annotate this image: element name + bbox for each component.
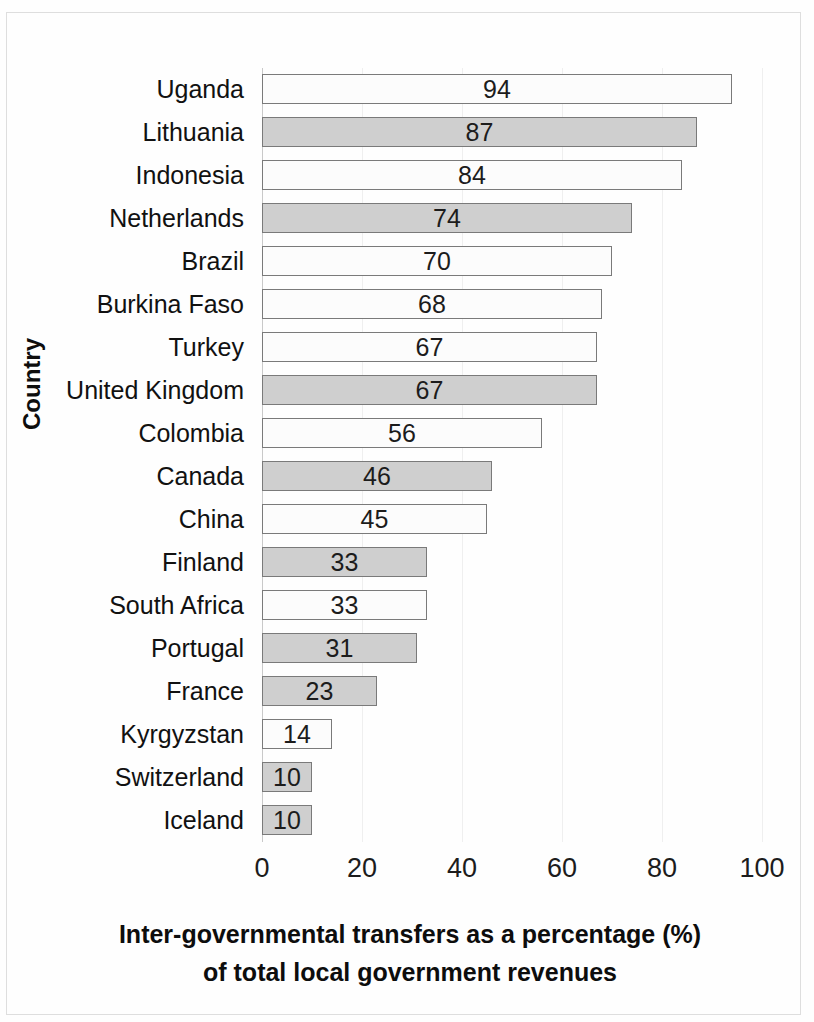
bar-value-label: 14	[262, 719, 332, 749]
bar-row[interactable]: 68	[262, 283, 762, 326]
chart-figure: UgandaLithuaniaIndonesiaNetherlandsBrazi…	[0, 0, 814, 1022]
category-label: Finland	[162, 541, 244, 584]
x-axis-tick-labels: 020406080100	[262, 848, 762, 888]
bar-row[interactable]: 56	[262, 412, 762, 455]
plot-area: 948784747068676756464533333123141010	[262, 68, 762, 842]
category-label: South Africa	[109, 584, 244, 627]
bar-row[interactable]: 14	[262, 713, 762, 756]
x-tick-label-60: 60	[547, 848, 577, 888]
bar-row[interactable]: 33	[262, 584, 762, 627]
y-axis-title: Country	[18, 338, 46, 430]
category-label: Uganda	[156, 68, 244, 111]
bar-value-label: 94	[262, 74, 732, 104]
category-label: Turkey	[169, 326, 244, 369]
bar-row[interactable]: 23	[262, 670, 762, 713]
bar-row[interactable]: 46	[262, 455, 762, 498]
category-label: Iceland	[163, 799, 244, 842]
bar-value-label: 74	[262, 203, 632, 233]
category-label: China	[179, 498, 244, 541]
x-tick-label-40: 40	[447, 848, 477, 888]
category-label: Netherlands	[109, 197, 244, 240]
category-label: Brazil	[181, 240, 244, 283]
bar-value-label: 33	[262, 547, 427, 577]
bar-row[interactable]: 10	[262, 799, 762, 842]
bar-value-label: 87	[262, 117, 697, 147]
category-axis-labels: UgandaLithuaniaIndonesiaNetherlandsBrazi…	[0, 68, 262, 842]
x-tick-label-20: 20	[347, 848, 377, 888]
category-label: Lithuania	[143, 111, 244, 154]
x-axis-title-line-1: Inter-governmental transfers as a percen…	[60, 915, 760, 953]
category-label: France	[166, 670, 244, 713]
bar-value-label: 31	[262, 633, 417, 663]
bar-value-label: 70	[262, 246, 612, 276]
bar-value-label: 45	[262, 504, 487, 534]
bar-value-label: 67	[262, 375, 597, 405]
category-label: Portugal	[151, 627, 244, 670]
bar-row[interactable]: 70	[262, 240, 762, 283]
bar-value-label: 46	[262, 461, 492, 491]
category-label: Kyrgyzstan	[120, 713, 244, 756]
bar-value-label: 56	[262, 418, 542, 448]
bar-value-label: 23	[262, 676, 377, 706]
bar-row[interactable]: 87	[262, 111, 762, 154]
category-label: Colombia	[138, 412, 244, 455]
category-label: Indonesia	[136, 154, 244, 197]
x-tick-label-0: 0	[254, 848, 269, 888]
bar-row[interactable]: 33	[262, 541, 762, 584]
bar-value-label: 84	[262, 160, 682, 190]
bar-value-label: 67	[262, 332, 597, 362]
bar-value-label: 68	[262, 289, 602, 319]
bar-row[interactable]: 67	[262, 369, 762, 412]
category-label: Burkina Faso	[97, 283, 244, 326]
bar-row[interactable]: 45	[262, 498, 762, 541]
bar-row[interactable]: 84	[262, 154, 762, 197]
gridline-100	[762, 68, 763, 842]
bar-row[interactable]: 31	[262, 627, 762, 670]
category-label: Canada	[156, 455, 244, 498]
x-axis-title: Inter-governmental transfers as a percen…	[60, 915, 760, 991]
bar-value-label: 10	[262, 762, 312, 792]
bar-row[interactable]: 10	[262, 756, 762, 799]
bar-value-label: 33	[262, 590, 427, 620]
bar-row[interactable]: 67	[262, 326, 762, 369]
bar-value-label: 10	[262, 805, 312, 835]
x-axis-title-line-2: of total local government revenues	[60, 953, 760, 991]
category-label: Switzerland	[115, 756, 244, 799]
bar-row[interactable]: 94	[262, 68, 762, 111]
x-tick-label-80: 80	[647, 848, 677, 888]
bar-row[interactable]: 74	[262, 197, 762, 240]
x-tick-label-100: 100	[739, 848, 784, 888]
category-label: United Kingdom	[66, 369, 244, 412]
